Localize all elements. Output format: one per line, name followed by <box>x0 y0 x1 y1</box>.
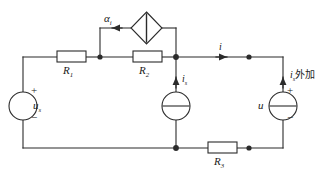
node-dot-b <box>173 54 179 60</box>
circuit-schematic-svg <box>0 0 325 174</box>
source-right-minus: − <box>287 112 293 123</box>
node-dot-c <box>173 145 179 151</box>
resistor-3-body <box>208 142 237 153</box>
resistor-1-body <box>57 51 86 62</box>
resistor-3-label: R3 <box>214 156 224 170</box>
node-dot-e <box>246 145 251 150</box>
current-top-label: i <box>219 42 222 52</box>
source-right-applied-label: is外加 <box>290 70 315 82</box>
resistor-2-body <box>133 51 162 62</box>
source-right-label: u <box>258 100 264 111</box>
source-left-minus: − <box>31 112 37 123</box>
source-left-plus: + <box>31 85 37 96</box>
circuit-diagram: αi R1 R2 R3 us + − is i is外加 u + − <box>0 0 325 174</box>
resistor-1-label: R1 <box>63 65 73 79</box>
dependent-source-label: αi <box>104 13 112 27</box>
resistor-2-label: R2 <box>139 65 149 79</box>
node-dot-d <box>246 54 251 59</box>
source-right-plus: + <box>287 85 293 96</box>
node-dot-a <box>97 54 102 59</box>
source-middle-label: is <box>182 74 187 86</box>
